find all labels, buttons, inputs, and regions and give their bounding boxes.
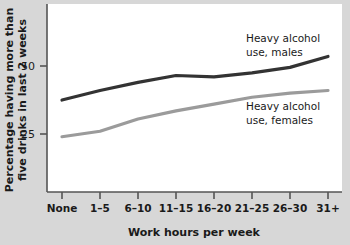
chart-figure: 50 25 None 1–5 6–10 11–15 16–20 21–25 26… (0, 0, 350, 245)
x-tick-label-1-5: 1–5 (90, 202, 110, 214)
y-axis-title-line2: five drinks in last 2 weeks (16, 19, 29, 181)
x-tick-label-11-15: 11–15 (159, 202, 193, 214)
series-annotation-females-line1: Heavy alcohol (246, 100, 320, 112)
series-annotation-males-line2: use, males (246, 46, 303, 58)
x-tick-label-26-30: 26–30 (273, 202, 307, 214)
y-axis-title: Percentage having more than five drinks … (3, 8, 29, 192)
x-axis-title: Work hours per week (128, 226, 261, 239)
y-axis-title-line1: Percentage having more than (3, 8, 16, 192)
x-tick-label-21-25: 21–25 (235, 202, 269, 214)
series-annotation-females-line2: use, females (246, 114, 313, 126)
x-tick-label-31plus: 31+ (316, 202, 339, 214)
x-axis-category-labels: None 1–5 6–10 11–15 16–20 21–25 26–30 31… (47, 202, 340, 214)
x-tick-label-6-10: 6–10 (124, 202, 151, 214)
x-tick-label-16-20: 16–20 (197, 202, 231, 214)
series-annotation-males-line1: Heavy alcohol (246, 32, 320, 44)
line-chart: 50 25 None 1–5 6–10 11–15 16–20 21–25 26… (0, 0, 350, 245)
x-tick-label-none: None (47, 202, 78, 214)
